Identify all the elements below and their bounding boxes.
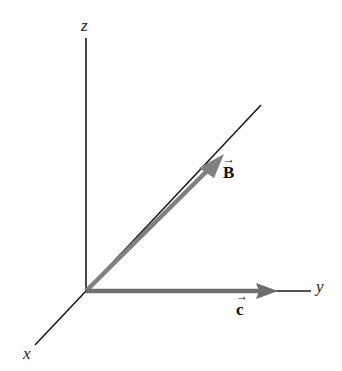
vector-b-label: → B [223,163,234,183]
vector-c-label: → c [236,300,244,320]
vector-arrow-icon: → [223,152,235,167]
y-axis-label: y [316,277,324,297]
z-axis-label: z [81,16,88,36]
axes-figure [0,0,342,371]
x-axis [35,291,86,345]
vector-c-arrow [86,283,278,299]
vector-b-arrow [86,154,224,291]
x-axis-label: x [23,344,31,364]
vector-arrow-icon: → [236,289,248,304]
